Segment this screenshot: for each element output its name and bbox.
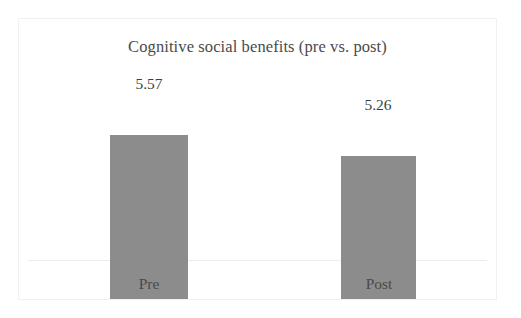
- category-label-pre: Pre: [79, 275, 219, 293]
- plot-area: 5.57 Pre 5.26 Post: [19, 19, 496, 299]
- category-label-post: Post: [309, 275, 449, 293]
- chart-panel: Cognitive social benefits (pre vs. post)…: [18, 18, 497, 300]
- bar-value-label-pre: 5.57: [89, 75, 209, 93]
- category-axis-line: [28, 260, 487, 261]
- figure-canvas: Cognitive social benefits (pre vs. post)…: [0, 0, 521, 318]
- bar-value-label-post: 5.26: [318, 96, 438, 114]
